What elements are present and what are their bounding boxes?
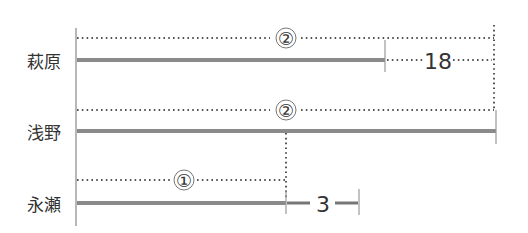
- segment-diagram: ② 18 ② ① 3: [0, 0, 528, 233]
- hagiwara-bracket-label: ②: [278, 28, 294, 49]
- nagase-diff-label: 3: [316, 192, 330, 217]
- hagiwara-diff-label: 18: [424, 49, 452, 74]
- asano-bracket-label: ②: [278, 100, 294, 121]
- nagase-bracket-label: ①: [176, 170, 192, 191]
